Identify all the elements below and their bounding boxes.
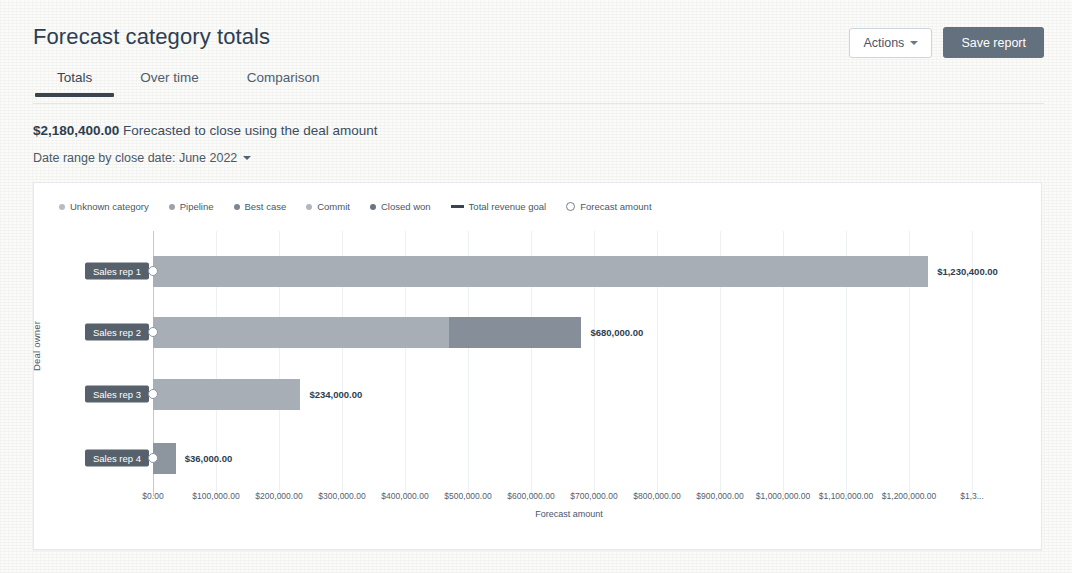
bar-segment[interactable] [153,317,449,348]
tab-totals[interactable]: Totals [33,70,116,97]
x-tick-label: $300,000.00 [318,491,365,501]
forecast-amount-marker [148,389,158,399]
date-range-selector[interactable]: Date range by close date: June 2022 [33,151,251,165]
x-tick-label: $0.00 [142,491,163,501]
x-tick-label: $900,000.00 [696,491,743,501]
x-tick-label: $800,000.00 [633,491,680,501]
forecast-total-amount: $2,180,400.00 [33,123,119,138]
forecast-amount-marker [148,453,158,463]
forecast-amount-marker [148,327,158,337]
bar-value-label: $234,000.00 [309,389,362,400]
actions-button[interactable]: Actions [849,28,932,58]
summary-line: $2,180,400.00 Forecasted to close using … [33,123,378,138]
forecast-total-description: Forecasted to close using the deal amoun… [119,123,377,138]
header-actions: Actions Save report [849,27,1044,58]
bar-value-label: $36,000.00 [185,453,233,464]
tab-comparison[interactable]: Comparison [223,70,344,97]
page-title: Forecast category totals [33,24,270,50]
tab-bar-divider [33,103,1044,104]
bar-value-label: $680,000.00 [590,327,643,338]
page-header: Forecast category totals Actions Save re… [0,0,1072,108]
x-tick-label: $200,000.00 [255,491,302,501]
category-label-2[interactable]: Sales rep 2 [85,324,149,341]
x-tick-label: $500,000.00 [444,491,491,501]
x-tick-label: $600,000.00 [507,491,554,501]
bar-value-label: $1,230,400.00 [937,266,998,277]
bar-segment[interactable] [153,379,300,410]
x-tick-label: $700,000.00 [570,491,617,501]
chart-card: Unknown categoryPipelineBest caseCommitC… [33,182,1042,550]
category-label-1[interactable]: Sales rep 1 [85,263,149,280]
actions-button-label: Actions [863,36,904,50]
x-tick-label: $1,200,000.00 [882,491,936,501]
category-label-3[interactable]: Sales rep 3 [85,386,149,403]
y-axis-title: Deal owner [31,321,42,371]
bar-2[interactable] [153,317,581,348]
x-tick-label: $1,3... [960,491,984,501]
forecast-amount-marker [148,266,158,276]
tab-over-time[interactable]: Over time [116,70,223,97]
bar-segment[interactable] [153,256,928,287]
bar-segment[interactable] [449,317,581,348]
date-range-label: Date range by close date: June 2022 [33,151,237,165]
x-tick-label: $100,000.00 [192,491,239,501]
bar-1[interactable] [153,256,928,287]
save-report-button[interactable]: Save report [943,27,1044,58]
category-label-4[interactable]: Sales rep 4 [85,450,149,467]
x-tick-label: $1,100,000.00 [819,491,873,501]
bar-3[interactable] [153,379,300,410]
chevron-down-icon [910,41,918,45]
chart-plot-area: Deal owner Forecast amount $0.00$100,000… [34,183,1041,549]
tab-bar: Totals Over time Comparison [33,70,344,97]
x-tick-label: $1,000,000.00 [756,491,810,501]
chevron-down-icon [243,156,251,160]
x-tick-label: $400,000.00 [381,491,428,501]
x-axis-title: Forecast amount [535,509,603,519]
